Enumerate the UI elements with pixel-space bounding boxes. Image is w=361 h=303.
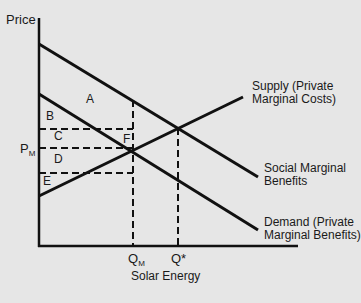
demand-label-line2: Marginal Benefits) — [264, 229, 361, 242]
region-f-label: F — [123, 133, 130, 146]
demand-curve — [39, 94, 258, 230]
pm-main: P — [20, 141, 29, 156]
pm-tick-label: PM — [20, 142, 35, 157]
supply-label-line2: Marginal Costs) — [252, 93, 336, 106]
region-a-label: A — [86, 93, 94, 106]
x-axis-label: Solar Energy — [131, 270, 200, 283]
qm-main: Q — [128, 251, 138, 266]
region-e-label: E — [43, 175, 51, 188]
qm-tick-label: QM — [128, 252, 145, 267]
smb-label-line2: Benefits — [264, 175, 307, 188]
region-d-label: D — [54, 153, 63, 166]
region-b-label: B — [46, 110, 54, 123]
qm-sub: M — [138, 259, 145, 268]
qstar-tick-label: Q* — [171, 252, 186, 265]
region-c-label: C — [54, 130, 63, 143]
social-marginal-benefits-curve — [39, 44, 258, 177]
y-axis-label: Price — [6, 13, 36, 26]
pm-sub: M — [29, 149, 36, 158]
